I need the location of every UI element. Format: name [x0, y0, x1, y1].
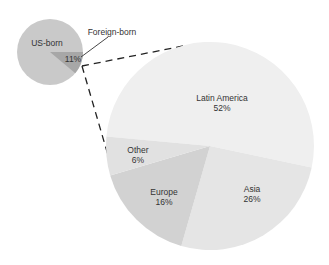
pie-of-pie-chart: US-born 11% Foreign-born Latin America 5…	[0, 0, 329, 265]
label-europe-pct: 16%	[155, 197, 172, 207]
label-latin-america-pct: 52%	[213, 103, 230, 113]
label-other: Other	[127, 145, 148, 155]
connector-bottom	[82, 66, 110, 162]
label-latin-america: Latin America	[196, 93, 248, 103]
small-pie: US-born 11% Foreign-born	[17, 19, 137, 85]
label-us-born: US-born	[31, 38, 63, 48]
label-foreign-born: Foreign-born	[88, 27, 137, 37]
label-other-pct: 6%	[132, 155, 145, 165]
leader-line	[81, 37, 108, 57]
label-asia: Asia	[244, 184, 261, 194]
label-asia-pct: 26%	[243, 194, 260, 204]
large-pie: Latin America 52% Asia 26% Europe 16% Ot…	[106, 42, 314, 250]
label-foreign-born-pct: 11%	[65, 54, 82, 64]
label-europe: Europe	[150, 187, 178, 197]
